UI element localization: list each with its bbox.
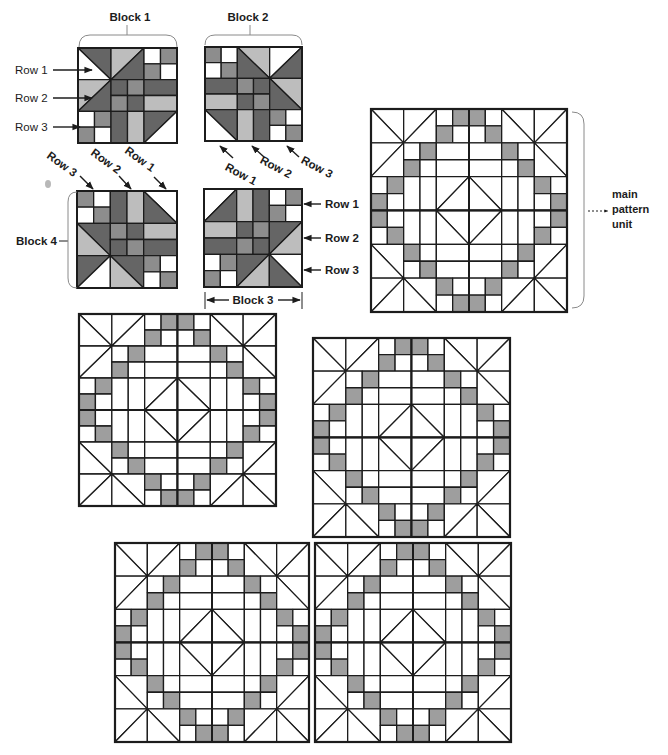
square-top-right bbox=[494, 404, 510, 421]
patch-hst bbox=[313, 504, 346, 537]
patch-four bbox=[112, 346, 145, 378]
patch-four bbox=[244, 676, 276, 709]
patch-hst bbox=[444, 338, 477, 371]
strip-left bbox=[404, 211, 420, 245]
patch-hst bbox=[77, 223, 110, 255]
patch-four bbox=[277, 609, 309, 642]
patch-hst bbox=[477, 504, 510, 537]
patch-hst bbox=[534, 244, 567, 278]
square-bottom-left bbox=[371, 194, 387, 211]
patch-railh bbox=[469, 244, 502, 278]
block-2-row-1-label: Row 1 bbox=[223, 161, 259, 188]
square-bottom-right bbox=[286, 125, 302, 141]
patch-four bbox=[315, 609, 348, 642]
patch-four bbox=[346, 371, 379, 404]
patch-hst bbox=[110, 256, 143, 288]
square-bottom-left bbox=[436, 126, 452, 143]
square-top-left bbox=[79, 378, 95, 394]
strip-bottom bbox=[178, 362, 211, 378]
patch-hst bbox=[478, 676, 511, 709]
square-top-left bbox=[78, 111, 95, 127]
square-bottom-right bbox=[221, 63, 237, 79]
patch-four bbox=[380, 543, 413, 576]
patch-hst bbox=[477, 338, 510, 371]
patch-four bbox=[315, 643, 348, 676]
square-bottom-right bbox=[331, 626, 347, 643]
block-4-brace bbox=[68, 192, 77, 288]
square-top-right bbox=[462, 576, 478, 593]
strip-left bbox=[244, 609, 260, 642]
strip-top bbox=[413, 576, 446, 593]
square-top-right bbox=[260, 410, 276, 426]
strip-left bbox=[502, 177, 518, 211]
pattern-quadrant-block2 bbox=[412, 338, 511, 438]
square-bottom-right bbox=[485, 295, 501, 312]
patch-four bbox=[237, 222, 270, 255]
square-top-right bbox=[420, 244, 436, 261]
square-top-left bbox=[243, 378, 259, 394]
square-top-right bbox=[362, 471, 378, 488]
patch-four bbox=[115, 643, 147, 676]
patch-hst bbox=[243, 314, 276, 346]
square-top-right bbox=[329, 404, 345, 421]
patch-four bbox=[446, 576, 479, 609]
patch-railh bbox=[380, 676, 413, 709]
square-bottom-left bbox=[144, 272, 161, 288]
main-pattern-unit bbox=[371, 109, 567, 312]
block-2-row-2-label: Row 2 bbox=[258, 154, 294, 180]
patch-railh bbox=[144, 80, 177, 112]
square-bottom-left bbox=[270, 125, 286, 141]
patch-hst bbox=[277, 543, 309, 576]
square-bottom-right bbox=[453, 126, 469, 143]
patch-hst bbox=[270, 47, 302, 78]
square-top-left bbox=[210, 346, 226, 362]
patch-four bbox=[380, 709, 413, 742]
patch-hst bbox=[315, 576, 348, 609]
square-top-right bbox=[161, 314, 177, 330]
square-bottom-right bbox=[220, 271, 236, 287]
block-4-row-3-label: Row 3 bbox=[45, 149, 79, 179]
patch-railh bbox=[413, 676, 446, 709]
patch-four bbox=[237, 78, 269, 109]
square-bottom-left bbox=[110, 240, 127, 256]
patch-hst bbox=[210, 314, 243, 346]
patch-hst bbox=[144, 111, 177, 143]
pattern-quadrant-block3 bbox=[413, 643, 511, 743]
square-bottom-left bbox=[277, 626, 293, 643]
patch-hst bbox=[277, 576, 309, 609]
strip-bottom bbox=[380, 593, 413, 610]
square-bottom-right bbox=[94, 207, 111, 223]
square-top-left bbox=[270, 110, 286, 126]
block-1-row-1-label: Row 1 bbox=[15, 64, 48, 76]
square-bottom-left bbox=[112, 362, 128, 378]
strip-top bbox=[412, 371, 445, 388]
patch-hst bbox=[112, 474, 145, 506]
patch-railh bbox=[180, 576, 212, 609]
square-top-left bbox=[212, 543, 228, 560]
strip-right bbox=[128, 111, 145, 143]
strip-right bbox=[164, 609, 180, 642]
square-bottom-right bbox=[461, 487, 477, 504]
square-bottom-left bbox=[313, 454, 329, 471]
square-bottom-left bbox=[180, 725, 196, 742]
strip-bottom bbox=[412, 487, 445, 504]
square-top-left bbox=[534, 211, 550, 228]
strip-bottom bbox=[469, 261, 502, 278]
square-top-left bbox=[379, 504, 395, 521]
patch-hst bbox=[379, 438, 412, 471]
patch-railv bbox=[502, 177, 535, 211]
square-top-right bbox=[164, 676, 180, 693]
square-top-left bbox=[346, 371, 362, 388]
square-bottom-right bbox=[253, 238, 269, 254]
square-top-right bbox=[160, 256, 177, 272]
square-top-left bbox=[477, 404, 493, 421]
patch-railh bbox=[436, 143, 469, 177]
square-top-right bbox=[194, 474, 210, 490]
square-bottom-left bbox=[237, 238, 253, 254]
square-bottom-left bbox=[269, 205, 285, 221]
square-bottom-right bbox=[227, 362, 243, 378]
square-bottom-right bbox=[260, 394, 276, 410]
pattern-quadrant-block3 bbox=[469, 211, 567, 313]
patch-hst bbox=[371, 244, 404, 278]
patch-hst bbox=[115, 543, 147, 576]
